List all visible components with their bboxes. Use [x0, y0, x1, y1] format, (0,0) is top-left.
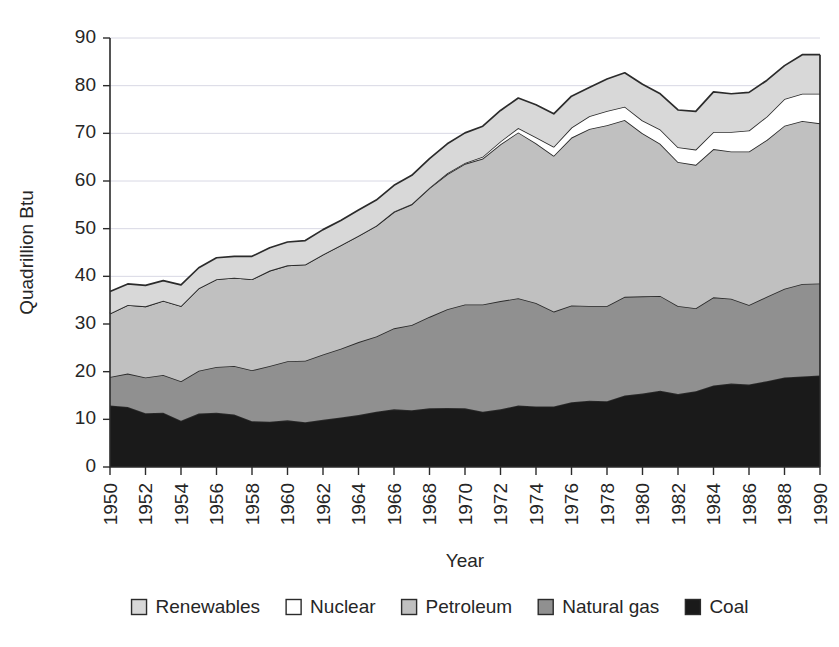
x-tick-label: 1986: [739, 483, 760, 525]
x-tick-label: 1990: [810, 483, 831, 525]
x-axis-title: Year: [446, 550, 485, 571]
x-tick-label: 1950: [100, 483, 121, 525]
x-tick-label: 1966: [384, 483, 405, 525]
x-tick-label: 1954: [171, 483, 192, 526]
legend-swatch-petroleum[interactable]: [402, 600, 417, 615]
legend-swatch-natural-gas[interactable]: [538, 600, 553, 615]
x-tick-label: 1970: [455, 483, 476, 525]
x-tick-label: 1974: [526, 483, 547, 526]
area-series-group: [110, 55, 820, 467]
y-axis-ticks: 0102030405060708090: [75, 26, 110, 476]
chart-canvas: 0102030405060708090 19501952195419561958…: [0, 0, 839, 647]
x-tick-label: 1976: [561, 483, 582, 525]
y-tick-label: 40: [75, 264, 96, 285]
x-tick-label: 1978: [597, 483, 618, 525]
legend-swatch-renewables[interactable]: [132, 600, 147, 615]
legend-label-renewables[interactable]: Renewables: [156, 596, 261, 617]
x-tick-label: 1988: [774, 483, 795, 525]
x-tick-label: 1962: [313, 483, 334, 525]
chart-legend: RenewablesNuclearPetroleumNatural gasCoa…: [132, 596, 749, 617]
x-tick-label: 1952: [135, 483, 156, 525]
y-tick-label: 70: [75, 121, 96, 142]
x-tick-label: 1982: [668, 483, 689, 525]
x-tick-label: 1964: [348, 483, 369, 526]
y-tick-label: 80: [75, 74, 96, 95]
x-tick-label: 1956: [206, 483, 227, 525]
legend-swatch-nuclear[interactable]: [286, 600, 301, 615]
x-tick-label: 1980: [632, 483, 653, 525]
y-tick-label: 60: [75, 169, 96, 190]
stacked-area-chart: 0102030405060708090 19501952195419561958…: [0, 0, 839, 647]
x-tick-label: 1984: [703, 483, 724, 526]
x-tick-label: 1960: [277, 483, 298, 525]
x-tick-label: 1972: [490, 483, 511, 525]
x-tick-label: 1958: [242, 483, 263, 525]
legend-label-natural-gas[interactable]: Natural gas: [562, 596, 659, 617]
x-axis-ticks: 1950195219541956195819601962196419661968…: [100, 467, 831, 525]
y-tick-label: 30: [75, 312, 96, 333]
y-axis-title: Quadrillion Btu: [16, 190, 37, 315]
legend-label-coal[interactable]: Coal: [709, 596, 748, 617]
legend-swatch-coal[interactable]: [685, 600, 700, 615]
x-tick-label: 1968: [419, 483, 440, 525]
legend-label-nuclear[interactable]: Nuclear: [310, 596, 376, 617]
y-tick-label: 10: [75, 407, 96, 428]
y-tick-label: 20: [75, 360, 96, 381]
y-tick-label: 90: [75, 26, 96, 47]
legend-label-petroleum[interactable]: Petroleum: [426, 596, 513, 617]
y-tick-label: 50: [75, 217, 96, 238]
y-tick-label: 0: [85, 455, 96, 476]
